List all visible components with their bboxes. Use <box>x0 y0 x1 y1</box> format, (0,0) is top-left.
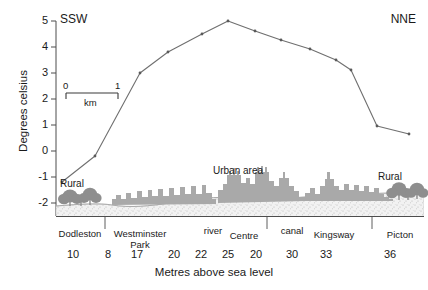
temperature-data-points <box>61 20 411 184</box>
x-axis-title: Metres above sea level <box>0 266 428 278</box>
compass-label-ssw: SSW <box>60 12 87 26</box>
scalebar-label-one: 1 <box>115 80 120 91</box>
scalebar-unit-km: km <box>84 97 97 108</box>
y-tick-label-neg1: -1 <box>26 170 48 182</box>
place-label-westminster-park: Westminster Park <box>114 228 167 250</box>
tree-cluster-right <box>386 182 428 200</box>
compass-label-nne: NNE <box>391 12 416 26</box>
place-label-westminster-line1: Westminster <box>114 228 167 239</box>
place-label-river: river <box>204 225 222 236</box>
elevation-value-4: 22 <box>195 248 207 260</box>
y-tick-label-5: 5 <box>26 14 48 26</box>
elevation-value-1: 8 <box>105 248 111 260</box>
elevation-value-3: 20 <box>168 248 180 260</box>
tree-cluster-left <box>58 188 102 206</box>
place-label-canal: canal <box>281 225 304 236</box>
y-tick-label-0: 0 <box>26 144 48 156</box>
y-tick-label-neg2: -2 <box>26 196 48 208</box>
elevation-value-7: 30 <box>286 248 298 260</box>
temperature-line <box>62 21 409 182</box>
elevation-value-0: 10 <box>67 248 79 260</box>
scalebar-label-zero: 0 <box>63 80 68 91</box>
chart-canvas <box>0 0 428 290</box>
place-label-dodleston: Dodleston <box>59 228 102 239</box>
annotation-rural-right: Rural <box>378 171 402 182</box>
y-tick-label-3: 3 <box>26 66 48 78</box>
place-label-centre: Centre <box>230 230 259 241</box>
place-label-kingsway: Kingsway <box>314 229 355 240</box>
elevation-value-9: 36 <box>384 248 396 260</box>
y-tick-label-4: 4 <box>26 40 48 52</box>
place-label-picton: Picton <box>387 229 413 240</box>
elevation-value-6: 20 <box>250 248 262 260</box>
elevation-value-8: 33 <box>320 248 332 260</box>
y-tick-label-2: 2 <box>26 92 48 104</box>
temperature-transect-chart: Degrees celsius Metres above sea level S… <box>0 0 428 290</box>
y-tick-label-1: 1 <box>26 118 48 130</box>
elevation-value-2: 17 <box>131 248 143 260</box>
y-axis-ticks <box>51 21 56 203</box>
annotation-rural-left: Rural <box>60 178 84 189</box>
elevation-value-5: 25 <box>222 248 234 260</box>
annotation-urban-area: Urban area <box>213 165 263 176</box>
